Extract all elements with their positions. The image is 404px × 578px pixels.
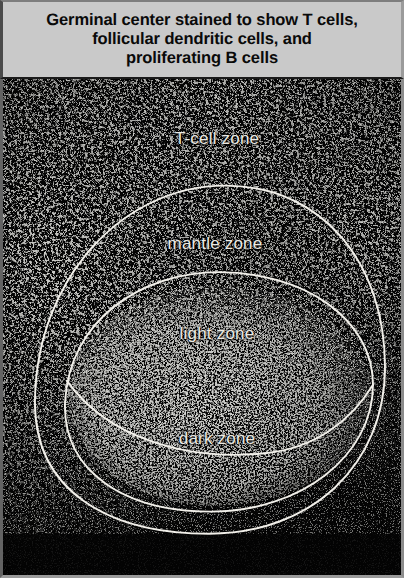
mantle-zone-outline [35, 186, 385, 534]
germinal-center-outline [65, 272, 373, 511]
figure-caption-bar: Germinal center stained to show T cells,… [0, 0, 404, 79]
light-dark-zone-divider [67, 381, 373, 455]
figure-caption-text: Germinal center stained to show T cells,… [36, 11, 367, 68]
figure-panel: Germinal center stained to show T cells,… [0, 0, 404, 578]
micrograph-image: T-cell zone mantle zone light zone dark … [0, 79, 404, 578]
zone-outline-overlay [3, 79, 401, 575]
